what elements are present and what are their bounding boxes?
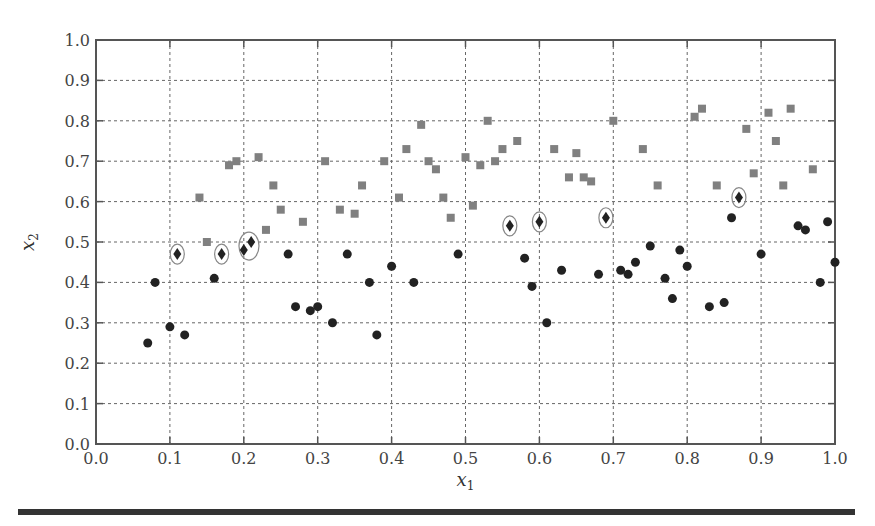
square-point	[609, 117, 617, 125]
y-axis-label: x2	[17, 233, 41, 251]
circle-point	[180, 330, 189, 339]
circle-point	[557, 266, 566, 275]
square-point	[587, 177, 595, 185]
circle-point	[720, 298, 729, 307]
square-point	[321, 157, 329, 165]
square-point	[417, 121, 425, 129]
x-tick-label: 0.3	[305, 449, 330, 468]
axis-ticks: 0.00.10.20.30.40.50.60.70.80.91.00.00.10…	[65, 31, 848, 468]
y-tick-label: 0.4	[65, 273, 90, 292]
square-point	[358, 181, 366, 189]
circle-point	[313, 302, 322, 311]
square-point	[513, 137, 521, 145]
square-point	[476, 161, 484, 169]
square-point	[772, 137, 780, 145]
circle-point	[291, 302, 300, 311]
circle-point	[520, 254, 529, 263]
square-point	[654, 181, 662, 189]
square-point	[203, 238, 211, 246]
circle-point	[210, 274, 219, 283]
circle-point	[661, 274, 670, 283]
circle-point	[528, 282, 537, 291]
x-tick-label: 0.4	[379, 449, 404, 468]
square-point	[750, 169, 758, 177]
diamond-point	[735, 192, 743, 204]
x-tick-label: 0.7	[601, 449, 626, 468]
square-point	[713, 181, 721, 189]
square-point	[432, 165, 440, 173]
circle-point	[816, 278, 825, 287]
square-point	[462, 153, 470, 161]
circle-point	[705, 302, 714, 311]
square-point	[491, 157, 499, 165]
square-point	[565, 173, 573, 181]
circle-point	[284, 250, 293, 259]
square-point	[225, 161, 233, 169]
circle-point	[343, 250, 352, 259]
square-point	[550, 145, 558, 153]
circle-point	[823, 217, 832, 226]
square-point	[336, 206, 344, 214]
y-tick-label: 0.7	[65, 152, 90, 171]
x-tick-label: 0.6	[527, 449, 552, 468]
square-point	[764, 109, 772, 117]
diamond-point	[247, 236, 255, 248]
x-tick-label: 0.8	[674, 449, 699, 468]
y-tick-label: 0.8	[65, 112, 90, 131]
circle-point	[631, 258, 640, 267]
x-tick-label: 0.2	[231, 449, 256, 468]
square-point	[742, 125, 750, 133]
circle-point	[831, 258, 840, 267]
diamond-point	[218, 248, 226, 260]
circle-point	[624, 270, 633, 279]
diamond-point	[506, 220, 514, 232]
circle-point	[372, 330, 381, 339]
circle-point	[646, 242, 655, 251]
square-point	[580, 173, 588, 181]
circle-point	[387, 262, 396, 271]
square-point	[698, 105, 706, 113]
x-tick-label: 0.9	[748, 449, 773, 468]
square-point	[380, 157, 388, 165]
circle-point	[675, 246, 684, 255]
y-tick-label: 0.1	[65, 395, 90, 414]
x-tick-label: 1.0	[822, 449, 847, 468]
data-points	[143, 105, 839, 348]
circle-point	[542, 318, 551, 327]
square-point	[691, 113, 699, 121]
circle-point	[143, 339, 152, 348]
square-point	[402, 145, 410, 153]
circle-point	[594, 270, 603, 279]
circle-point	[454, 250, 463, 259]
square-point	[299, 218, 307, 226]
square-point	[639, 145, 647, 153]
square-point	[262, 226, 270, 234]
circle-point	[757, 250, 766, 259]
square-point	[395, 194, 403, 202]
square-point	[277, 206, 285, 214]
circle-point	[668, 294, 677, 303]
x-tick-label: 0.1	[157, 449, 182, 468]
circle-point	[328, 318, 337, 327]
y-tick-label: 0.2	[65, 354, 90, 373]
square-point	[779, 181, 787, 189]
y-tick-label: 0.0	[65, 435, 90, 454]
circle-point	[165, 322, 174, 331]
circle-point	[727, 213, 736, 222]
square-point	[351, 210, 359, 218]
square-point	[439, 194, 447, 202]
square-point	[425, 157, 433, 165]
square-point	[447, 214, 455, 222]
x-axis-label: x1	[457, 469, 475, 493]
square-point	[232, 157, 240, 165]
diamond-point	[602, 212, 610, 224]
y-tick-label: 0.5	[65, 233, 90, 252]
highlight-ring	[239, 232, 259, 260]
circle-point	[801, 225, 810, 234]
diamond-point	[173, 248, 181, 260]
scatter-chart: 0.00.10.20.30.40.50.60.70.80.91.00.00.10…	[0, 0, 875, 526]
square-point	[269, 181, 277, 189]
x-tick-label: 0.5	[453, 449, 478, 468]
circle-point	[151, 278, 160, 287]
circle-point	[409, 278, 418, 287]
